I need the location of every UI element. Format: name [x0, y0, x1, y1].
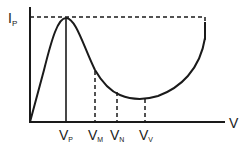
- y-axis-label: IP: [8, 10, 17, 28]
- iv-characteristic-diagram: IP V VP VM VN VV: [0, 0, 252, 147]
- vn-label: VN: [110, 127, 124, 143]
- x-axis-label: V: [229, 115, 239, 131]
- vp-label: VP: [59, 127, 73, 143]
- vv-label: VV: [139, 127, 153, 143]
- vm-label: VM: [88, 127, 103, 143]
